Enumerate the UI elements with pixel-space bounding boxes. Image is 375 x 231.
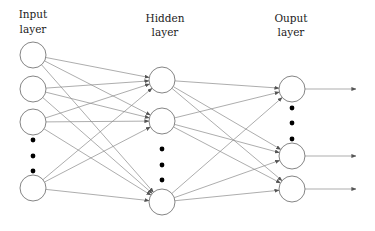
input-node-3-circle-icon bbox=[20, 175, 46, 201]
output-arrows bbox=[305, 89, 356, 189]
output-ellipsis-dot-icon bbox=[290, 121, 295, 126]
hidden-node-0-circle-icon bbox=[149, 67, 175, 93]
output-layer-label-line1: Ouput bbox=[274, 12, 308, 24]
output-ellipsis-dot-icon bbox=[290, 106, 295, 111]
edge-input-1-to-hidden-0 bbox=[46, 81, 149, 88]
edge-input-3-to-hidden-0 bbox=[43, 88, 152, 179]
input-node-2-circle-icon bbox=[20, 109, 46, 135]
neural-network-diagram: Input layer Hidden layer Ouput layer bbox=[0, 0, 375, 231]
input-node-1-circle-icon bbox=[20, 76, 46, 102]
edge-hidden-1-to-output-2 bbox=[174, 127, 281, 183]
edge-input-2-to-hidden-2 bbox=[44, 129, 151, 195]
hidden-node-2-circle-icon bbox=[149, 189, 175, 215]
neuron-nodes bbox=[20, 42, 305, 215]
output-layer-label-line2: layer bbox=[278, 26, 306, 38]
edge-hidden-1-to-output-1 bbox=[175, 124, 280, 152]
edge-input-0-to-hidden-1 bbox=[45, 61, 151, 115]
edge-input-3-to-hidden-1 bbox=[45, 127, 151, 182]
input-layer-label-line2: layer bbox=[20, 23, 48, 35]
input-ellipsis-dot-icon bbox=[31, 138, 36, 143]
edge-input-3-to-hidden-2 bbox=[46, 189, 149, 200]
hidden-ellipsis-dot-icon bbox=[160, 178, 165, 183]
layer-labels: Input layer Hidden layer Ouput layer bbox=[19, 8, 309, 38]
edge-input-2-to-hidden-1 bbox=[46, 121, 149, 122]
edge-hidden-0-to-output-0 bbox=[175, 81, 279, 88]
hidden-layer-label-line2: layer bbox=[152, 26, 180, 38]
edge-input-2-to-hidden-0 bbox=[45, 84, 149, 118]
hidden-ellipsis-dot-icon bbox=[160, 147, 165, 152]
hidden-node-1-circle-icon bbox=[149, 108, 175, 134]
hidden-ellipsis-dot-icon bbox=[160, 163, 165, 168]
edge-input-1-to-hidden-2 bbox=[43, 98, 152, 194]
output-node-2-circle-icon bbox=[279, 176, 305, 202]
input-ellipsis-dot-icon bbox=[31, 169, 36, 174]
edge-input-0-to-hidden-2 bbox=[42, 65, 154, 192]
output-node-1-circle-icon bbox=[279, 143, 305, 169]
input-layer-label-line1: Input bbox=[19, 8, 48, 20]
output-ellipsis-dot-icon bbox=[290, 137, 295, 142]
edge-input-0-to-hidden-0 bbox=[46, 57, 149, 77]
hidden-layer-label-line1: Hidden bbox=[146, 12, 185, 24]
output-node-0-circle-icon bbox=[279, 76, 305, 102]
input-node-0-circle-icon bbox=[20, 42, 46, 68]
input-ellipsis-dot-icon bbox=[31, 154, 36, 159]
